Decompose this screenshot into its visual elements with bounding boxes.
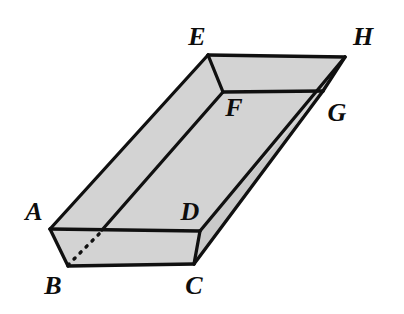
- vertex-label-C: C: [185, 273, 202, 299]
- edge-B-C: [68, 264, 194, 266]
- vertex-label-H: H: [353, 24, 373, 50]
- geometry-figure: A B C D E F G H: [0, 0, 404, 314]
- vertex-label-E: E: [188, 24, 205, 50]
- vertex-label-F: F: [225, 95, 242, 121]
- edge-E-H: [208, 55, 345, 57]
- face-front: [50, 229, 200, 266]
- edge-F-G: [223, 91, 323, 92]
- vertex-label-B: B: [44, 273, 61, 299]
- edge-A-D: [50, 229, 200, 231]
- vertex-label-A: A: [25, 199, 42, 225]
- face-group: [50, 55, 345, 266]
- vertex-label-D: D: [181, 199, 200, 225]
- vertex-label-G: G: [328, 100, 347, 126]
